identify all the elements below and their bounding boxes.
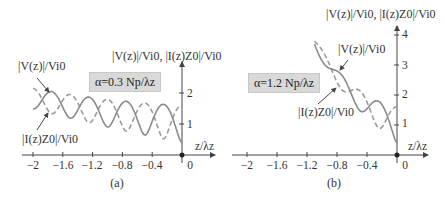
panel-b-y-tick: 1: [402, 118, 408, 130]
panel-a-x-tick: −1.6: [53, 160, 74, 172]
panel-a-x-tick: −0.4: [142, 160, 163, 172]
panel-a-y-tick: 1: [187, 119, 193, 131]
panel-b-i-label: |I(z)Z0|/Vi0: [298, 106, 354, 118]
panel-b-x-tick: −1.6: [267, 160, 288, 172]
panel-b-x-tick: −0.8: [327, 160, 348, 172]
panel-b-plot: [232, 26, 428, 163]
panel-a-x-tick: 0: [187, 160, 193, 172]
panel-b-x-axis-label: z/λz: [408, 141, 427, 153]
panel-b-v-label: |V(z)|/Vi0: [338, 43, 385, 55]
panel-b-y-tick: 2: [402, 89, 408, 101]
panel-b-caption: (b): [327, 176, 341, 191]
panel-a-x-tick: −1.2: [82, 160, 103, 172]
panel-a-alpha-box: α=0.3 Np/λz: [89, 72, 161, 92]
voltage-curve: [315, 44, 398, 143]
panel-a-v-label: |V(z)|/Vi0: [18, 60, 65, 72]
panel-b-x-tick: 0: [402, 160, 408, 172]
panel-b-x-tick: −2: [241, 160, 253, 172]
panel-a-i-label: |I(z)Z0|/Vi0: [22, 133, 78, 145]
panel-b-y-tick: 4: [402, 29, 408, 41]
panel-b-x-tick: −1.2: [297, 160, 318, 172]
panel-a-x-axis-label: z/λz: [195, 141, 214, 153]
chart-canvas: [0, 0, 445, 206]
panel-a-y-axis-label: |V(z)|/Vi0, |I(z)Z0|/Vi0: [112, 50, 221, 62]
panel-a-x-tick: −2: [27, 160, 39, 172]
panel-b-x-tick: −0.4: [357, 160, 378, 172]
panel-b-y-axis-label: |V(z)|/Vi0, |I(z)Z0|/Vi0: [326, 8, 435, 20]
panel-a-caption: (a): [110, 176, 123, 191]
panel-b-alpha-box: α=1.2 Np/λz: [248, 73, 320, 93]
panel-a-y-tick: 2: [187, 88, 193, 100]
panel-a-x-tick: −0.8: [112, 160, 133, 172]
panel-b-y-tick: 3: [402, 60, 408, 72]
